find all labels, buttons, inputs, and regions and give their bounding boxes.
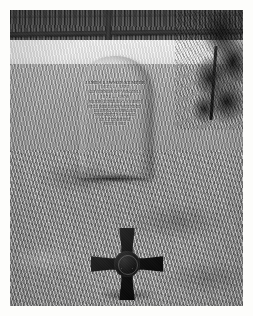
inscription-line-rank: MAJOR GENERAL C. S. ARMY: [79, 100, 151, 104]
photo-print-frame: JAMES LAWSON KEMPER 1823 — 1895 GOVERNOR…: [0, 0, 253, 316]
tree-trunk: [209, 46, 217, 120]
photo-caption: Grave of James Lawson Kemper with Southe…: [0, 0, 1, 1]
battle-flag-icon: [121, 259, 133, 269]
gravestone: JAMES LAWSON KEMPER 1823 — 1895 GOVERNOR…: [79, 56, 151, 178]
photograph-image: JAMES LAWSON KEMPER 1823 — 1895 GOVERNOR…: [10, 10, 243, 306]
southern-cross-of-honor-marker: [91, 228, 163, 300]
inscription-line-date: JULY 3, 1863: [79, 122, 151, 126]
evergreen-tree: [175, 12, 243, 130]
gravestone-inscription: JAMES LAWSON KEMPER 1823 — 1895 GOVERNOR…: [79, 80, 151, 127]
